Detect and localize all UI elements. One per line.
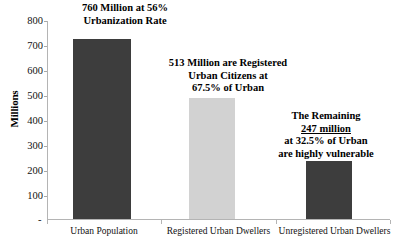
x-axis-label-urban-population: Urban Population [47,226,161,237]
y-tick-label-0: - [38,216,42,224]
annotation-line: are highly vulnerable [259,148,393,161]
y-tick-label-700: 700 [12,41,43,51]
annotation-registered-urban-dwellers: 513 Million are Registered Urban Citizen… [148,57,308,95]
annotation-line: 760 Million at 56% [45,2,205,15]
y-tick-label-500: 500 [12,91,43,101]
bar-chart: Millions 800 700 600 500 400 300 200 100… [0,0,393,251]
x-tick-mark-0 [47,220,48,224]
bar-registered-urban-dwellers [189,98,235,219]
annotation-unregistered-urban-dwellers: The Remaining 247 million at 32.5% of Ur… [259,110,393,160]
annotation-line: Urban Citizens at [148,70,308,83]
y-tick-label-100: 100 [12,191,43,201]
x-tick-mark-2 [276,220,277,224]
x-axis-label-registered-urban-dwellers: Registered Urban Dwellers [161,226,276,237]
y-tick-label-800: 800 [12,16,43,26]
annotation-line-emphasis: 247 million [259,123,393,136]
y-axis-line [47,21,48,220]
x-axis-line [47,219,390,220]
x-tick-mark-3 [390,220,391,224]
y-axis-title: Millions [8,74,20,144]
annotation-line: at 32.5% of Urban [259,135,393,148]
x-tick-mark-1 [161,220,162,224]
bar-unregistered-urban-dwellers [306,161,352,219]
y-tick-label-400: 400 [12,116,43,126]
annotation-line: 513 Million are Registered [148,57,308,70]
annotation-line: The Remaining [259,110,393,123]
y-tick-label-600: 600 [12,66,43,76]
y-tick-label-300: 300 [12,141,43,151]
annotation-line: Urbanization Rate [45,15,205,28]
x-axis-label-unregistered-urban-dwellers: Unregistered Urban Dwellers [276,226,393,237]
bar-urban-population [73,39,131,219]
annotation-urban-population: 760 Million at 56% Urbanization Rate [45,2,205,27]
annotation-line: 67.5% of Urban [148,82,308,95]
y-tick-label-200: 200 [12,166,43,176]
